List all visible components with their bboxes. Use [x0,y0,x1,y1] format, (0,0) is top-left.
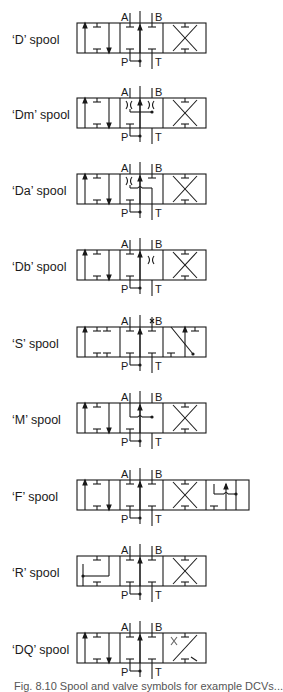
port-label-t: T [155,665,162,679]
port-label-p: P [121,665,128,679]
figure-caption: Fig. 8.10 Spool and valve symbols for ex… [14,680,283,692]
port-label-b: B [155,620,162,634]
port-label-a: A [121,620,128,634]
spool-row-dq: ‘DQ’ spoolABPT [0,0,271,75]
